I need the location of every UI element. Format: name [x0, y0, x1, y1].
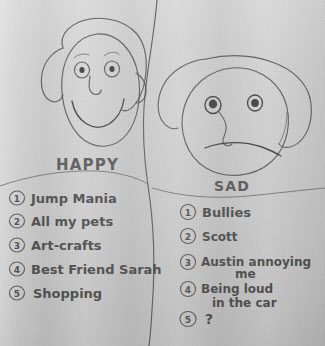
happy-item-text-2: All my pets — [31, 214, 113, 229]
happy-left-pupil — [79, 67, 84, 73]
happy-hair-outline — [62, 18, 146, 111]
sad-item-text-1: Bullies — [202, 205, 251, 220]
happy-item-text-1: Jump Mania — [30, 191, 117, 206]
sad-number-1: 1 — [185, 208, 191, 218]
happy-number-3: 3 — [14, 241, 20, 251]
sad-left-pupil — [209, 100, 217, 109]
pencil-drawing-layer: HAPPY SAD 1 Jump Mania 2 All my pets 3 A… — [0, 0, 325, 346]
sad-list-item-4: 4 Being loud in the car — [181, 282, 277, 311]
sad-number-3: 3 — [185, 258, 191, 268]
sad-face-drawing — [158, 56, 311, 176]
happy-list-item-1: 1 Jump Mania — [10, 191, 117, 206]
happy-item-text-4: Best Friend Sarah — [31, 262, 162, 277]
happy-number-1: 1 — [14, 194, 20, 204]
sad-item-text-3-line2: me — [235, 267, 256, 281]
sad-nose — [219, 112, 232, 146]
happy-right-eyebrow — [104, 52, 119, 56]
happy-face-drawing — [41, 18, 146, 146]
happy-list-item-4: 4 Best Friend Sarah — [10, 262, 162, 277]
happy-list-item-2: 2 All my pets — [10, 214, 114, 229]
sad-number-4: 4 — [185, 285, 191, 295]
sad-list: 1 Bullies 2 Scott 3 Austin annoying me 4… — [180, 205, 311, 328]
happy-nose — [89, 76, 101, 94]
sad-number-5: 5 — [185, 315, 191, 325]
sad-item-text-4: Being loud — [201, 282, 273, 296]
sad-item-text-5: ? — [205, 311, 213, 327]
sad-item-text-2: Scott — [202, 230, 238, 244]
happy-hair-left-flap — [41, 48, 63, 102]
sad-hair-right-flap — [279, 98, 311, 147]
happy-hair-right-flap — [136, 73, 146, 103]
happy-item-text-5: Shopping — [33, 286, 102, 301]
sad-list-item-1: 1 Bullies — [181, 205, 252, 221]
sad-frown-mouth — [205, 143, 281, 156]
happy-list: 1 Jump Mania 2 All my pets 3 Art-crafts … — [10, 191, 162, 301]
happy-left-eyebrow — [74, 54, 89, 58]
sad-hair-top — [206, 56, 310, 98]
happy-right-pupil — [109, 66, 114, 72]
drawing-sheet: HAPPY SAD 1 Jump Mania 2 All my pets 3 A… — [0, 0, 325, 346]
happy-item-text-3: Art-crafts — [31, 238, 102, 253]
happy-number-2: 2 — [14, 217, 20, 227]
sad-list-item-3: 3 Austin annoying me — [181, 255, 312, 282]
sad-item-text-4-line2: in the car — [212, 296, 277, 310]
happy-list-item-5: 5 Shopping — [10, 286, 103, 301]
happy-heading: HAPPY — [56, 156, 119, 174]
sad-list-item-2: 2 Scott — [181, 229, 238, 245]
sad-heading: SAD — [214, 178, 250, 194]
sad-list-item-5: 5 ? — [180, 311, 213, 327]
happy-list-item-3: 3 Art-crafts — [10, 238, 102, 253]
sad-item-text-3: Austin annoying — [201, 255, 311, 269]
happy-number-5: 5 — [14, 289, 20, 299]
happy-smile-mouth — [72, 99, 124, 127]
sad-number-2: 2 — [185, 232, 191, 242]
sad-face-oval — [182, 68, 288, 176]
sad-right-pupil — [251, 99, 259, 107]
happy-number-4: 4 — [14, 265, 20, 275]
